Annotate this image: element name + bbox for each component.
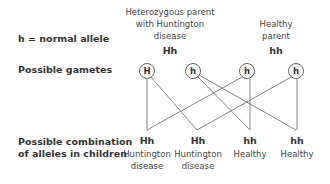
child-1-genotype: Hh bbox=[122, 135, 172, 146]
line-h1-to-child3 bbox=[197, 76, 250, 130]
gamete-h-1: h bbox=[185, 63, 201, 79]
line-h2-to-child1 bbox=[147, 76, 244, 130]
line-h3-to-child2 bbox=[197, 76, 293, 130]
child-3-genotype: hh bbox=[225, 135, 275, 146]
child-2-genotype: Hh bbox=[173, 135, 223, 146]
gamete-h-3: h bbox=[288, 63, 304, 79]
line-H-to-child2 bbox=[151, 77, 197, 130]
line-h1-to-child4 bbox=[199, 75, 296, 130]
child-2-phenotype: Huntington disease bbox=[168, 148, 228, 172]
parent-affected-genotype: Hh bbox=[150, 45, 190, 56]
child-4-phenotype: Healthy bbox=[267, 148, 327, 160]
row-label-combination-2: of alleles in children bbox=[18, 148, 127, 160]
parent-healthy-genotype: hh bbox=[256, 45, 296, 56]
row-label-gametes: Possible gametes bbox=[18, 64, 112, 76]
legend-normal-allele: h = normal allele bbox=[18, 33, 109, 45]
parent-healthy-title: Healthy parent bbox=[246, 18, 306, 42]
child-4-genotype: hh bbox=[272, 135, 322, 146]
gamete-H: H bbox=[139, 63, 155, 79]
row-label-combination-1: Possible combination bbox=[18, 136, 132, 148]
parent-affected-title: Heterozygous parent with Huntington dise… bbox=[120, 6, 220, 42]
gamete-h-2: h bbox=[239, 63, 255, 79]
